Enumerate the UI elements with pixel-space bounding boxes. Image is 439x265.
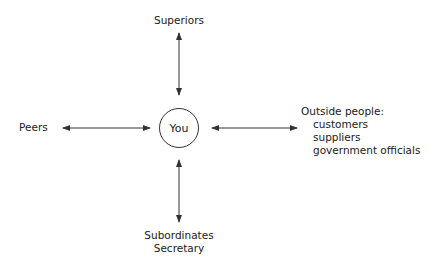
node-peers-label: Peers (19, 121, 48, 133)
node-peers: Peers (19, 121, 48, 134)
outside-people-item: customers (301, 118, 420, 131)
outside-people-item: government officials (301, 144, 420, 157)
node-outside-people: Outside people: customers suppliers gove… (301, 105, 420, 157)
node-subordinates: Subordinates Secretary (129, 229, 229, 255)
node-superiors-label: Superiors (154, 14, 204, 26)
node-you-label: You (170, 122, 189, 135)
outside-people-item: suppliers (301, 131, 420, 144)
node-subordinates-label: Subordinates (129, 229, 229, 242)
outside-people-title: Outside people: (301, 105, 420, 118)
node-you: You (159, 108, 199, 148)
node-secretary-label: Secretary (129, 242, 229, 255)
node-superiors: Superiors (139, 14, 219, 27)
